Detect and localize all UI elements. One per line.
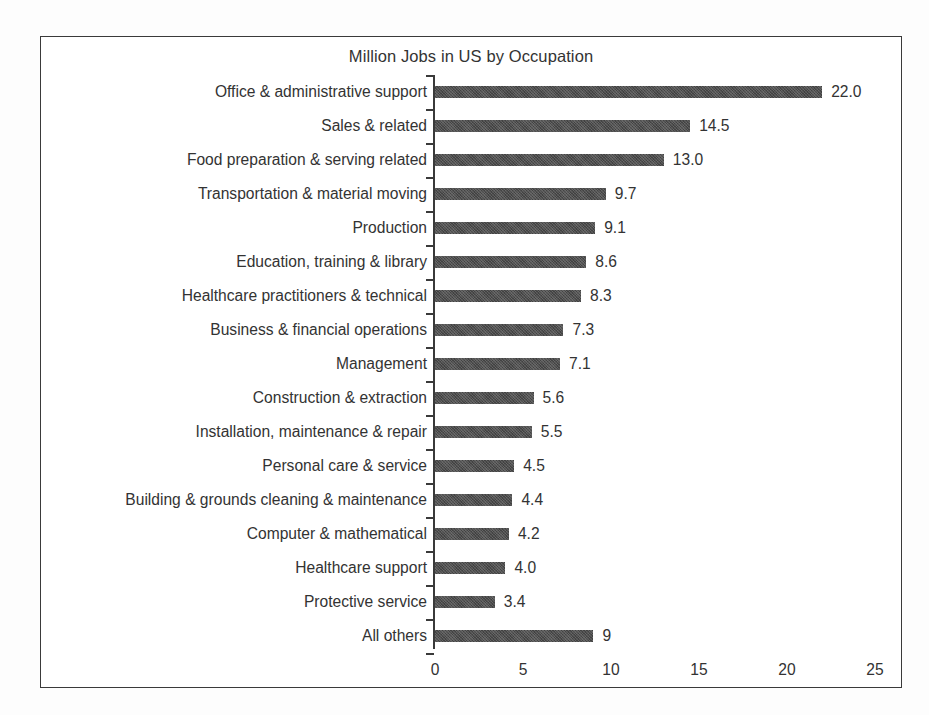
bar-row: Computer & mathematical4.2 xyxy=(41,517,901,551)
bar-track xyxy=(435,528,509,540)
bar-track xyxy=(435,154,664,166)
x-axis: 0510152025 xyxy=(41,649,901,689)
y-axis-tick xyxy=(426,585,434,587)
bar-track xyxy=(435,494,512,506)
x-axis-tick-label: 0 xyxy=(431,661,440,679)
bar-track xyxy=(435,426,532,438)
bar xyxy=(435,324,563,336)
y-axis-tick xyxy=(426,517,434,519)
y-axis-tick xyxy=(426,245,434,247)
y-axis-tick xyxy=(426,415,434,417)
x-axis-tick-label: 20 xyxy=(778,661,795,679)
bar xyxy=(435,460,514,472)
y-axis-tick xyxy=(426,449,434,451)
plot-area: Office & administrative support22.0Sales… xyxy=(41,37,901,687)
x-axis-tick-label: 15 xyxy=(690,661,707,679)
bar-value-label: 4.2 xyxy=(518,528,540,540)
bar xyxy=(435,392,534,404)
bar-value-label: 3.4 xyxy=(504,596,526,608)
bar-row: Sales & related14.5 xyxy=(41,109,901,143)
bar-value-label: 9 xyxy=(602,630,611,642)
y-axis-tick xyxy=(426,109,434,111)
bar-row: Installation, maintenance & repair5.5 xyxy=(41,415,901,449)
category-label: Construction & extraction xyxy=(47,381,427,415)
bar-track xyxy=(435,256,586,268)
bar-row: Building & grounds cleaning & maintenanc… xyxy=(41,483,901,517)
bar-value-label: 4.0 xyxy=(514,562,536,574)
category-label: Installation, maintenance & repair xyxy=(47,415,427,449)
scanned-page: Million Jobs in US by Occupation Office … xyxy=(0,0,929,715)
bar-row: Healthcare practitioners & technical8.3 xyxy=(41,279,901,313)
category-label: Sales & related xyxy=(47,109,427,143)
bar-value-label: 22.0 xyxy=(831,86,861,98)
bar xyxy=(435,562,505,574)
y-axis-tick xyxy=(426,75,434,77)
bar-value-label: 9.1 xyxy=(604,222,626,234)
bar-track xyxy=(435,222,595,234)
bar-track xyxy=(435,290,581,302)
bar-row: All others9 xyxy=(41,619,901,653)
category-label: Food preparation & serving related xyxy=(47,143,427,177)
chart-frame: Million Jobs in US by Occupation Office … xyxy=(40,36,902,688)
bar-value-label: 4.5 xyxy=(523,460,545,472)
bar-row: Construction & extraction5.6 xyxy=(41,381,901,415)
category-label: Production xyxy=(47,211,427,245)
bar-track xyxy=(435,562,505,574)
category-label: Management xyxy=(47,347,427,381)
bar xyxy=(435,494,512,506)
category-label: Healthcare practitioners & technical xyxy=(47,279,427,313)
bar-row: Transportation & material moving9.7 xyxy=(41,177,901,211)
y-axis-tick xyxy=(426,279,434,281)
category-label: Business & financial operations xyxy=(47,313,427,347)
bar-value-label: 5.6 xyxy=(543,392,565,404)
bar-track xyxy=(435,188,606,200)
bar-value-label: 8.3 xyxy=(590,290,612,302)
bar-track xyxy=(435,392,534,404)
y-axis-tick xyxy=(426,619,434,621)
bar-value-label: 7.3 xyxy=(572,324,594,336)
bar xyxy=(435,290,581,302)
bar-track xyxy=(435,358,560,370)
x-axis-tick-label: 10 xyxy=(602,661,619,679)
bar xyxy=(435,358,560,370)
y-axis-tick xyxy=(426,143,434,145)
bar xyxy=(435,630,593,642)
bar-row: Personal care & service4.5 xyxy=(41,449,901,483)
bar xyxy=(435,120,690,132)
category-label: Building & grounds cleaning & maintenanc… xyxy=(47,483,427,517)
bar-value-label: 13.0 xyxy=(673,154,703,166)
bar xyxy=(435,222,595,234)
bar-row: Business & financial operations7.3 xyxy=(41,313,901,347)
category-label: Computer & mathematical xyxy=(47,517,427,551)
bar-row: Protective service3.4 xyxy=(41,585,901,619)
bar-value-label: 7.1 xyxy=(569,358,591,370)
y-axis-tick xyxy=(426,483,434,485)
category-label: Personal care & service xyxy=(47,449,427,483)
x-axis-tick-label: 25 xyxy=(866,661,883,679)
y-axis-tick xyxy=(426,313,434,315)
x-axis-tick-label: 5 xyxy=(519,661,528,679)
bar-value-label: 4.4 xyxy=(521,494,543,506)
bar-value-label: 9.7 xyxy=(615,188,637,200)
bar-row: Education, training & library8.6 xyxy=(41,245,901,279)
bar-track xyxy=(435,596,495,608)
y-axis-tick xyxy=(426,177,434,179)
category-label: Office & administrative support xyxy=(47,75,427,109)
y-axis-tick xyxy=(426,211,434,213)
bar-track xyxy=(435,324,563,336)
bar xyxy=(435,426,532,438)
bar-row: Healthcare support4.0 xyxy=(41,551,901,585)
category-label: All others xyxy=(47,619,427,653)
bar-value-label: 8.6 xyxy=(595,256,617,268)
bar xyxy=(435,188,606,200)
bar-row: Management7.1 xyxy=(41,347,901,381)
bar-row: Office & administrative support22.0 xyxy=(41,75,901,109)
bar-track xyxy=(435,120,690,132)
bar-track xyxy=(435,86,822,98)
bar-value-label: 14.5 xyxy=(699,120,729,132)
y-axis-tick xyxy=(426,347,434,349)
category-label: Transportation & material moving xyxy=(47,177,427,211)
category-label: Protective service xyxy=(47,585,427,619)
bar xyxy=(435,256,586,268)
bar-value-label: 5.5 xyxy=(541,426,563,438)
